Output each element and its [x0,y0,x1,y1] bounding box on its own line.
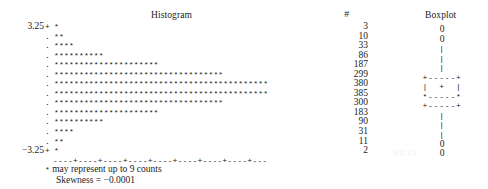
histogram-bar: * [54,22,59,32]
counts-column-header: # [344,10,350,20]
histogram-bar: ********** [54,51,104,61]
boxplot-row: | [396,60,488,70]
boxplot-row: | [396,127,488,137]
histogram-bar: ********************* [54,108,159,118]
histogram-bar: * [54,146,59,156]
histogram-bar: ****************************************… [54,79,268,89]
boxplot-plot: 00|||+-----+| + |*-----*+-----+|||00 [396,22,488,156]
boxplot-row: | [396,41,488,51]
histogram-axis-tick: + [45,146,54,156]
histogram-row: .********************************** [0,70,268,80]
histogram-bar: ** [54,32,64,42]
boxplot-row: *-----* [396,89,488,99]
histogram-axis-tick: . [45,98,54,108]
histogram-row: 3.25+* [0,22,268,32]
histogram-bar: ** [54,137,64,147]
histogram-axis-tick: . [45,70,54,80]
star-legend-note: * may represent up to 9 counts [45,164,162,174]
histogram-row: .********************************** [0,98,268,108]
histogram-axis-tick: . [45,32,54,42]
histogram-bar: **** [54,127,74,137]
histogram-row: .********************* [0,60,268,70]
histogram-axis-tick: . [45,60,54,70]
boxplot-row: | [396,117,488,127]
boxplot-row: | [396,51,488,61]
count-value: 11 [322,137,368,147]
histogram-axis-tick: . [45,41,54,51]
skewness-value: Skewness = −0.0001 [56,175,135,185]
histogram-bar: **** [54,41,74,51]
histogram-bar: ********************* [54,60,159,70]
boxplot-row: 0 [396,32,488,42]
histogram-bar: ****************************************… [54,89,268,99]
boxplot-outlier-count: 0 [440,148,445,158]
boxplot-row: | + | [396,79,488,89]
histogram-row: .***************************************… [0,79,268,89]
histogram-bar: ********************************** [54,98,223,108]
boxplot-row: | [396,108,488,118]
histogram-row: .********************* [0,108,268,118]
histogram-bar: ********** [54,117,104,127]
boxplot-row: 0 [396,137,488,147]
histogram-plot: 3.25+*.**.****.**********.**************… [0,22,268,156]
histogram-row: .**** [0,127,268,137]
histogram-axis-tick: . [45,108,54,118]
histogram-axis-tick: + [45,22,54,32]
histogram-row: .**** [0,41,268,51]
histogram-axis-label: 3.25 [0,22,45,32]
histogram-row: .***************************************… [0,89,268,99]
count-value: 2 [322,146,368,156]
boxplot-row: +-----+ [396,70,488,80]
histogram-axis-label: −3.25 [0,146,45,156]
histogram-row: .********** [0,117,268,127]
counts-column: 31033861872993803853001839031112 [322,22,368,156]
histogram-row: .** [0,32,268,42]
watermark: WILEY [392,150,418,159]
histogram-axis-tick: . [45,117,54,127]
histogram-axis-tick: . [45,127,54,137]
boxplot-row: +-----+ [396,98,488,108]
histogram-row: .********** [0,51,268,61]
histogram-row: −3.25+* [0,146,268,156]
star-legend-text: may represent up to 9 counts [50,164,162,174]
histogram-axis-tick: . [45,89,54,99]
histogram-axis-tick: . [45,79,54,89]
histogram-axis-tick: . [45,137,54,147]
histogram-bar: ********************************** [54,70,223,80]
histogram-axis-tick: . [45,51,54,61]
boxplot-row: 0 [396,22,488,32]
boxplot-title: Boxplot [425,10,456,20]
histogram-title: Histogram [151,10,192,20]
